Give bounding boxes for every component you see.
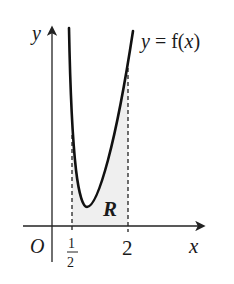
tick-label-two: 2 [122,236,133,260]
function-label: y = f(x) [139,30,200,53]
tick-label-half-denominator: 2 [67,255,74,270]
region-label: R [102,197,117,221]
x-axis-label: x [188,234,199,258]
y-axis-label: y [30,22,41,45]
origin-label: O [30,235,44,257]
tick-label-half-numerator: 1 [68,236,75,251]
graph: y y = f(x) O x 2 1 2 R [0,0,234,284]
region-r [72,70,128,226]
